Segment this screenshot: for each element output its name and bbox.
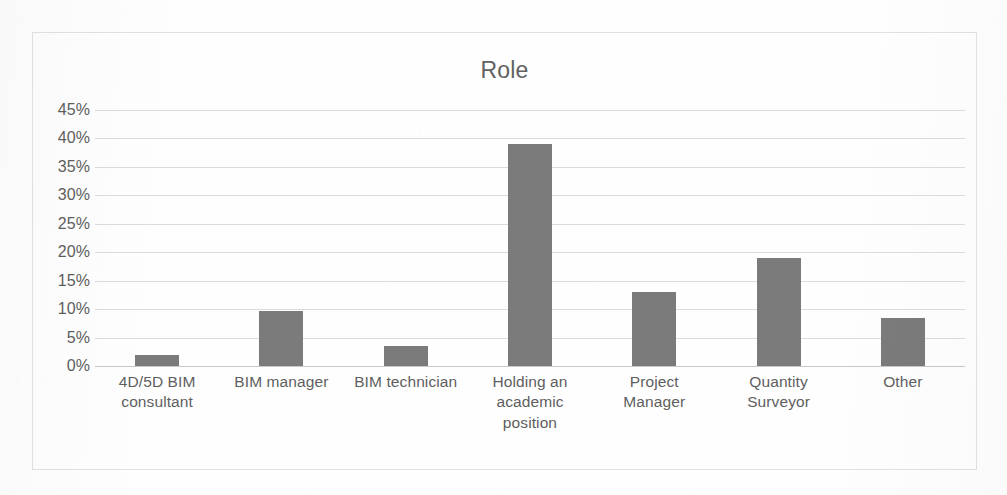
x-axis-tick-line: Manager — [592, 392, 716, 412]
y-axis-tick-label: 20% — [32, 244, 90, 260]
bar-slot — [592, 110, 716, 366]
bar-slot — [344, 110, 468, 366]
x-axis-tick-line: BIM manager — [219, 372, 343, 392]
bar-series — [95, 110, 965, 366]
x-axis: 4D/5D BIMconsultantBIM managerBIM techni… — [95, 372, 965, 452]
x-axis-tick-label: 4D/5D BIMconsultant — [95, 372, 219, 413]
x-axis-tick-line: Holding an — [468, 372, 592, 392]
x-axis-tick-line: BIM technician — [344, 372, 468, 392]
bar[interactable] — [757, 258, 801, 366]
y-axis-tick-label: 25% — [32, 216, 90, 232]
x-axis-tick-line: Quantity — [716, 372, 840, 392]
y-axis-tick-label: 10% — [32, 301, 90, 317]
y-axis-tick-label: 0% — [32, 358, 90, 374]
y-axis-tick-label: 45% — [32, 102, 90, 118]
y-axis-tick-label: 15% — [32, 273, 90, 289]
bar-slot — [716, 110, 840, 366]
x-axis-tick-label: Other — [841, 372, 965, 392]
x-axis-tick-line: Surveyor — [716, 392, 840, 412]
bar[interactable] — [259, 311, 303, 366]
x-axis-tick-label: QuantitySurveyor — [716, 372, 840, 413]
chart-title: Role — [33, 57, 976, 84]
bar[interactable] — [135, 355, 179, 366]
y-axis-tick-label: 40% — [32, 130, 90, 146]
x-axis-tick-line: Project — [592, 372, 716, 392]
x-axis-tick-line: academic — [468, 392, 592, 412]
x-axis-tick-label: ProjectManager — [592, 372, 716, 413]
axis-baseline — [95, 366, 965, 367]
bar-slot — [219, 110, 343, 366]
x-axis-tick-label: Holding anacademicposition — [468, 372, 592, 433]
x-axis-tick-label: BIM technician — [344, 372, 468, 392]
x-axis-tick-line: 4D/5D BIM — [95, 372, 219, 392]
scanned-page: Role 0%5%10%15%20%25%30%35%40%45% 4D/5D … — [0, 0, 1007, 495]
y-axis-tick-label: 30% — [32, 187, 90, 203]
bar[interactable] — [508, 144, 552, 366]
y-axis-tick-label: 35% — [32, 159, 90, 175]
bar[interactable] — [384, 346, 428, 366]
bar-slot — [841, 110, 965, 366]
y-axis-tick-label: 5% — [32, 330, 90, 346]
x-axis-tick-line: consultant — [95, 392, 219, 412]
x-axis-tick-line: position — [468, 413, 592, 433]
x-axis-tick-line: Other — [841, 372, 965, 392]
bar-slot — [468, 110, 592, 366]
x-axis-tick-label: BIM manager — [219, 372, 343, 392]
y-axis: 0%5%10%15%20%25%30%35%40%45% — [32, 110, 90, 366]
bar[interactable] — [881, 318, 925, 366]
bar[interactable] — [632, 292, 676, 366]
bar-slot — [95, 110, 219, 366]
